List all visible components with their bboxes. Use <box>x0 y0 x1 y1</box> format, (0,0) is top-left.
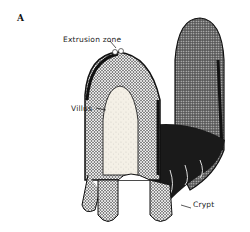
villus-illustration <box>0 0 250 232</box>
extrusion-zone-label: Extrusion zone <box>63 35 121 44</box>
villus-label: Villus <box>71 104 92 113</box>
front-villus <box>85 49 160 181</box>
crypt-label: Crypt <box>193 200 214 209</box>
